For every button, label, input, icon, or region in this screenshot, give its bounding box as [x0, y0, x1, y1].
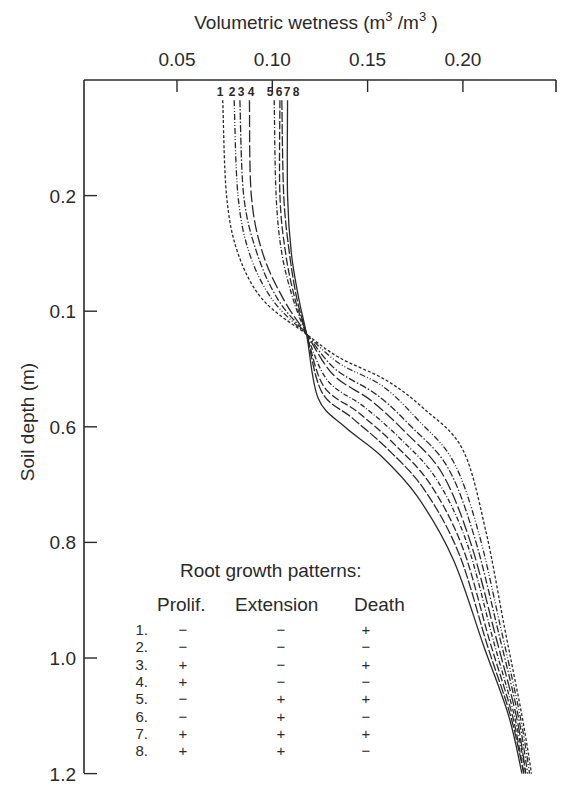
curve-label-7: 7 [284, 85, 291, 99]
x-axis-title: Volumetric wetness (m3 /m3 ) [194, 9, 438, 33]
curve-label-4: 4 [248, 85, 255, 99]
x-tick-label: 0.10 [254, 49, 291, 70]
curve-2 [234, 100, 529, 773]
data-series [223, 100, 532, 773]
x-tick-label: 0.20 [444, 49, 481, 70]
chart-canvas: Volumetric wetness (m3 /m3 ) 0.050.100.1… [0, 0, 573, 800]
x-axis-ticks: 0.050.100.150.20 [159, 49, 482, 92]
y-tick-label: 0.1 [50, 301, 76, 322]
x-tick-label: 0.15 [349, 49, 386, 70]
curve-number-labels: 12345678 [217, 85, 300, 99]
curve-label-6: 6 [276, 85, 283, 99]
curve-6 [280, 100, 524, 773]
curve-7 [282, 100, 524, 773]
y-axis-title: Soil depth (m) [17, 363, 38, 481]
x-tick-label: 0.05 [159, 49, 196, 70]
curve-label-1: 1 [217, 85, 224, 99]
curve-3 [240, 100, 528, 773]
curve-8 [287, 100, 522, 773]
curve-label-8: 8 [293, 85, 300, 99]
y-tick-label: 1.0 [50, 648, 76, 669]
y-tick-label: 0.8 [50, 532, 76, 553]
curve-5 [274, 100, 526, 773]
y-tick-label: 1.2 [50, 764, 76, 785]
curve-label-2: 2 [229, 85, 236, 99]
y-tick-label: 0.2 [50, 186, 76, 207]
y-axis-ticks: 0.20.10.60.81.01.2 [50, 186, 97, 785]
curve-label-5: 5 [267, 85, 274, 99]
curve-label-3: 3 [238, 85, 245, 99]
y-tick-label: 0.6 [50, 417, 76, 438]
curve-1 [223, 100, 532, 773]
